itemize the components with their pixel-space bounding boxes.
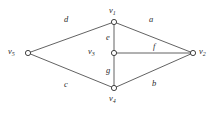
graph-vertex-v4	[111, 85, 116, 90]
vertices-group	[25, 19, 195, 90]
graph-vertex-v2	[190, 50, 195, 55]
graph-edge-c	[30, 54, 111, 87]
vertex-label-subscript-v3: 3	[92, 51, 95, 57]
edge-label-f: f	[153, 42, 155, 51]
graph-canvas	[0, 0, 215, 115]
graph-vertex-v5	[25, 50, 30, 55]
vertex-label-v1: v1	[109, 6, 116, 15]
edge-label-a: a	[149, 15, 153, 24]
graph-vertex-v1	[111, 19, 116, 24]
graph-vertex-v3	[111, 50, 116, 55]
vertex-label-subscript-v1: 1	[113, 10, 116, 16]
vertex-label-subscript-v4: 4	[113, 98, 116, 104]
graph-figure: dacbegfv1v2v3v4v5	[0, 0, 215, 115]
vertex-label-v4: v4	[109, 94, 116, 103]
vertex-label-subscript-v2: 2	[203, 51, 206, 57]
vertex-label-subscript-v5: 5	[12, 51, 15, 57]
edge-label-g: g	[106, 66, 110, 75]
vertex-label-v2: v2	[199, 47, 206, 56]
vertex-label-v5: v5	[8, 47, 15, 56]
edge-label-b: b	[152, 79, 156, 88]
edges-group	[30, 23, 190, 87]
vertex-label-v3: v3	[88, 47, 95, 56]
graph-edge-d	[30, 23, 111, 52]
edge-label-e: e	[106, 33, 110, 42]
edge-label-d: d	[64, 15, 68, 24]
edge-label-c: c	[64, 80, 68, 89]
